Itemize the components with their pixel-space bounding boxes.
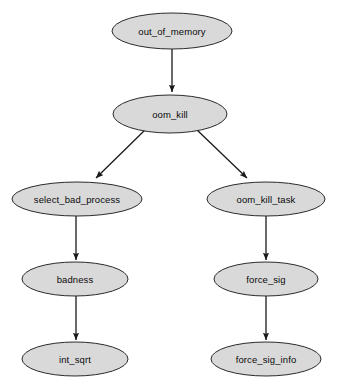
node-oom_kill[interactable]: oom_kill bbox=[113, 95, 227, 133]
node-force_sig_info[interactable]: force_sig_info bbox=[211, 342, 321, 376]
edge-oom_kill-to-oom_kill_task bbox=[196, 129, 247, 178]
node-layer: out_of_memory oom_kill select_bad_proces… bbox=[12, 13, 325, 376]
node-oom_kill_task[interactable]: oom_kill_task bbox=[207, 182, 325, 216]
call-graph-canvas: out_of_memory oom_kill select_bad_proces… bbox=[0, 0, 340, 391]
node-out_of_memory-label: out_of_memory bbox=[138, 26, 205, 37]
node-select_bad_process-label: select_bad_process bbox=[34, 194, 120, 205]
call-graph-diagram: out_of_memory oom_kill select_bad_proces… bbox=[0, 0, 340, 391]
node-int_sqrt[interactable]: int_sqrt bbox=[22, 342, 128, 376]
node-select_bad_process[interactable]: select_bad_process bbox=[12, 182, 142, 216]
node-badness[interactable]: badness bbox=[22, 262, 128, 296]
node-force_sig[interactable]: force_sig bbox=[214, 262, 318, 296]
node-oom_kill-label: oom_kill bbox=[152, 109, 188, 120]
node-force_sig_info-label: force_sig_info bbox=[236, 354, 297, 365]
edge-oom_kill-to-select_bad_process bbox=[96, 129, 146, 178]
node-oom_kill_task-label: oom_kill_task bbox=[237, 194, 296, 205]
node-force_sig-label: force_sig bbox=[246, 274, 285, 285]
node-out_of_memory[interactable]: out_of_memory bbox=[112, 13, 232, 49]
node-badness-label: badness bbox=[57, 274, 94, 285]
node-int_sqrt-label: int_sqrt bbox=[59, 354, 91, 365]
